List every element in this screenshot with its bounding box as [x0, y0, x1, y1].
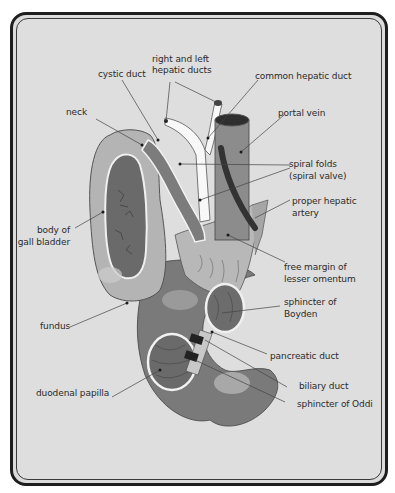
label-free-margin-line2: lesser omentum: [284, 274, 356, 285]
label-body-gall-bladder-line2: gall bladder: [14, 237, 70, 248]
label-neck: neck: [66, 107, 87, 118]
sphincter-of-boyden-shape: [206, 284, 244, 332]
label-pancreatic-duct: pancreatic duct: [270, 351, 339, 362]
label-sphincter-boyden-line1: sphincter of: [284, 297, 336, 308]
label-right-left-hepatic-line1: right and left: [152, 54, 209, 65]
label-sphincter-boyden-line2: Boyden: [284, 309, 317, 320]
label-free-margin-line1: free margin of: [284, 262, 346, 273]
label-cystic-duct: cystic duct: [98, 69, 146, 80]
label-spiral-folds-line1: spiral folds: [289, 159, 337, 170]
label-biliary-duct: biliary duct: [299, 381, 348, 392]
label-body-gall-bladder-line1: body of: [20, 225, 70, 236]
label-fundus: fundus: [40, 321, 70, 332]
label-portal-vein: portal vein: [278, 108, 325, 119]
label-right-left-hepatic-line2: hepatic ducts: [152, 65, 212, 76]
label-proper-hepatic-artery-line2: artery: [292, 208, 319, 219]
label-common-hepatic-duct: common hepatic duct: [255, 71, 351, 82]
label-duodenal-papilla: duodenal papilla: [36, 388, 109, 399]
label-proper-hepatic-artery-line1: proper hepatic: [292, 196, 357, 207]
label-sphincter-oddi: sphincter of Oddi: [297, 399, 373, 410]
label-spiral-folds-line2: (spiral valve): [289, 171, 346, 182]
